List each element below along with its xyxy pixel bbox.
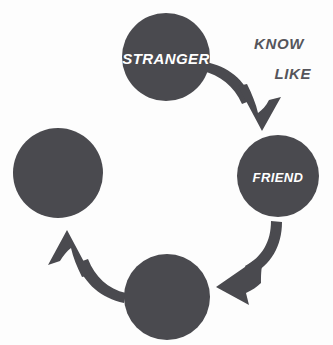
arrow-friend-to-bottom: [216, 221, 282, 305]
arrow-bottom-to-left: [48, 230, 126, 303]
node-bottom: [124, 254, 210, 340]
node-left: [13, 128, 103, 218]
arrow-stranger-to-friend-head: [238, 84, 281, 131]
stage-label-know: KNOW: [254, 35, 305, 52]
node-stranger-label: STRANGER: [122, 50, 209, 67]
node-friend-label: FRIEND: [253, 170, 304, 185]
arrow-friend-to-bottom-head: [216, 258, 263, 305]
arrow-stranger-to-friend: [202, 62, 281, 131]
cycle-diagram: STRANGER FRIEND KNOW LIKE: [0, 0, 333, 345]
cycle-diagram-canvas: STRANGER FRIEND KNOW LIKE: [0, 0, 333, 345]
stage-label-like: LIKE: [274, 65, 311, 82]
arrow-bottom-to-left-head: [48, 230, 91, 277]
